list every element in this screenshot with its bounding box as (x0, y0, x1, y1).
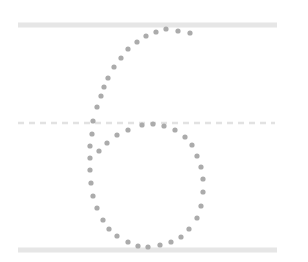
trace-dot (200, 189, 205, 194)
trace-dot (194, 153, 199, 158)
trace-dot (194, 215, 199, 220)
trace-dot (143, 33, 148, 38)
traced-digit-six (87, 26, 205, 249)
trace-dot (114, 233, 119, 238)
trace-dot (134, 39, 139, 44)
trace-dot (172, 127, 177, 132)
handwriting-worksheet (0, 0, 308, 262)
trace-dot (125, 239, 130, 244)
trace-dot (145, 244, 150, 249)
trace-dot (200, 176, 205, 181)
trace-dot (87, 167, 92, 172)
trace-dot (98, 93, 103, 98)
trace-dot (189, 142, 194, 147)
trace-dot (135, 243, 140, 248)
trace-dot (198, 164, 203, 169)
trace-dot (87, 143, 92, 148)
trace-dot (118, 55, 123, 60)
trace-dot (106, 226, 111, 231)
trace-dot (175, 28, 180, 33)
trace-dot (96, 148, 101, 153)
trace-dot (90, 193, 95, 198)
trace-dot (198, 203, 203, 208)
trace-dot (178, 234, 183, 239)
trace-dot (125, 127, 130, 132)
trace-dot (87, 155, 92, 160)
trace-dot (168, 239, 173, 244)
trace-dot (157, 242, 162, 247)
trace-dot (139, 122, 144, 127)
trace-dot (163, 26, 168, 31)
trace-dot (100, 217, 105, 222)
trace-dot (186, 226, 191, 231)
trace-dot (105, 75, 110, 80)
trace-dot (125, 46, 130, 51)
trace-dot (187, 30, 192, 35)
trace-dot (182, 134, 187, 139)
trace-dot (89, 131, 94, 136)
trace-dot (114, 132, 119, 137)
trace-dot (111, 64, 116, 69)
trace-dot (90, 118, 95, 123)
trace-dot (94, 205, 99, 210)
trace-dot (101, 84, 106, 89)
trace-dot (104, 140, 109, 145)
trace-dot (88, 180, 93, 185)
trace-dot (94, 104, 99, 109)
trace-dot (150, 121, 155, 126)
trace-dot (161, 123, 166, 128)
trace-dot (153, 29, 158, 34)
